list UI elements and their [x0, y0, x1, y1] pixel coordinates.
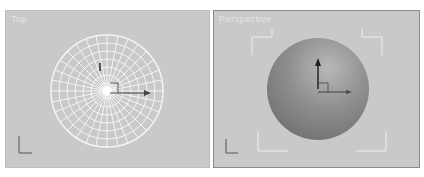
viewport-perspective[interactable]: Perspective: [213, 10, 420, 168]
axis-tripod-icon: [19, 136, 32, 153]
wireframe-sphere: [6, 11, 211, 169]
axis-tripod-icon: [226, 139, 238, 153]
viewport-top[interactable]: Top: [5, 10, 210, 168]
shaded-sphere: [214, 11, 421, 169]
